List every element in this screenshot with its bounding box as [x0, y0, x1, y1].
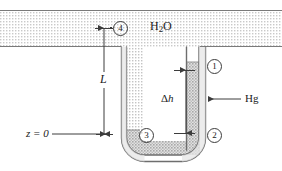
- figure-graphics: [0, 0, 282, 171]
- water-label-o: O: [163, 19, 172, 33]
- delta-h-label: Δh: [161, 93, 174, 104]
- point-marker-1: 1: [207, 59, 222, 74]
- manometer-figure: H2O Hg L Δh z = 0 4 1 2 3: [0, 0, 282, 171]
- water-reservoir-band: [0, 10, 282, 47]
- point-marker-2: 2: [207, 128, 222, 143]
- water-label: H2O: [150, 20, 172, 34]
- datum-label: z = 0: [26, 128, 49, 139]
- length-label: L: [100, 73, 107, 85]
- h-symbol: h: [168, 92, 174, 104]
- point-marker-4: 4: [113, 21, 128, 36]
- mercury-label: Hg: [245, 93, 258, 104]
- point-marker-3: 3: [139, 128, 154, 143]
- water-label-h: H: [150, 19, 159, 33]
- figure-stage: H2O Hg L Δh z = 0 4 1 2 3: [0, 0, 282, 171]
